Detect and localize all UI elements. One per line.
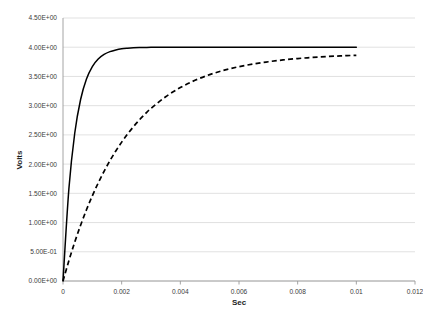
y-tick-label: 4.00E+00 bbox=[29, 44, 58, 51]
x-tick-label: 0.004 bbox=[172, 288, 189, 295]
x-tick-label-group: 00.0020.0040.0060.0080.010.012 bbox=[61, 288, 423, 295]
y-tick-label-group: 0.00E+005.00E-011.00E+001.50E+002.00E+00… bbox=[29, 14, 58, 284]
x-tickmark-group bbox=[63, 281, 415, 285]
y-tick-label: 5.00E-01 bbox=[30, 248, 57, 255]
y-axis-title: Volts bbox=[15, 150, 24, 170]
y-tick-label: 0.00E+00 bbox=[29, 277, 58, 284]
y-tick-label: 3.00E+00 bbox=[29, 102, 58, 109]
series-line-slow-rise bbox=[63, 55, 356, 281]
x-tick-label: 0.006 bbox=[231, 288, 248, 295]
x-axis-title: Sec bbox=[232, 298, 247, 307]
y-tick-label: 4.50E+00 bbox=[29, 14, 58, 21]
x-tick-label: 0.008 bbox=[289, 288, 306, 295]
chart-figure: 0.00E+005.00E-011.00E+001.50E+002.00E+00… bbox=[0, 0, 423, 320]
chart-plot-area: 0.00E+005.00E-011.00E+001.50E+002.00E+00… bbox=[0, 0, 423, 320]
x-tick-label: 0 bbox=[61, 288, 65, 295]
x-tick-label: 0.002 bbox=[113, 288, 130, 295]
x-tick-label: 0.01 bbox=[350, 288, 363, 295]
y-tick-label: 1.50E+00 bbox=[29, 190, 58, 197]
y-tick-label: 2.50E+00 bbox=[29, 131, 58, 138]
y-tick-label: 3.50E+00 bbox=[29, 73, 58, 80]
x-tick-label: 0.012 bbox=[407, 288, 423, 295]
y-tick-label: 2.00E+00 bbox=[29, 161, 58, 168]
y-tick-label: 1.00E+00 bbox=[29, 219, 58, 226]
